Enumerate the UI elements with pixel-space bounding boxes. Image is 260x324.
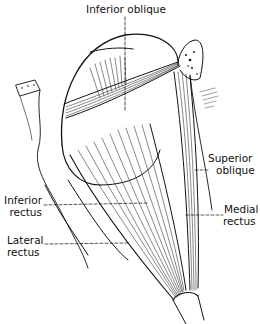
label-lateral-rectus-line1: Lateral <box>7 234 44 246</box>
label-medial-rectus-line1: Medial <box>224 203 258 215</box>
label-inferior-oblique: Inferior oblique <box>84 3 168 15</box>
label-medial-rectus-line2: rectus <box>223 215 256 227</box>
label-inferior-rectus-line2: rectus <box>0 206 42 218</box>
label-superior-oblique-line1: Superior <box>208 152 252 164</box>
label-lateral-rectus-line2: rectus <box>7 246 40 258</box>
label-inferior-rectus-line1: Inferior <box>0 194 42 206</box>
anatomy-figure: Inferior oblique Superior oblique Inferi… <box>0 0 260 324</box>
label-superior-oblique-line2: oblique <box>216 164 255 176</box>
